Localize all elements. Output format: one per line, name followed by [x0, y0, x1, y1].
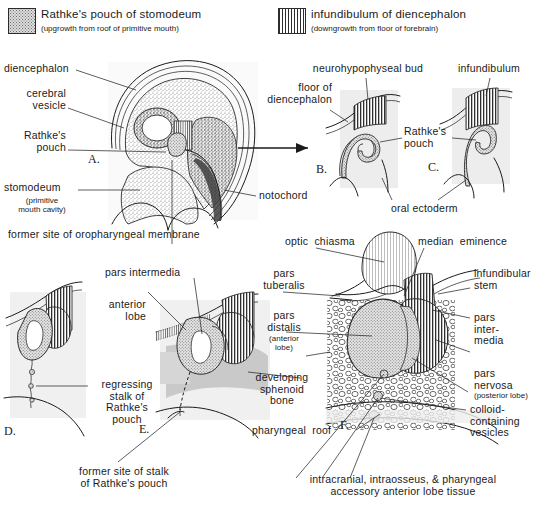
label-pars-intermedia-f: pars inter- media [474, 312, 504, 347]
label-notochord: notochord [259, 190, 308, 202]
label-regressing-stalk: regressing stalk of Rathke's pouch [90, 379, 164, 425]
label-floor-of-diencephalon: floor of diencephalon [258, 82, 332, 105]
panel-c-artwork [440, 88, 512, 198]
panel-a-artwork [108, 61, 258, 232]
label-diencephalon: diencephalon [4, 63, 69, 75]
figure-development-of-pituitary: Rathke's pouch of stomodeum (upgrowth fr… [0, 0, 549, 511]
label-pharyngeal-roof: pharyngeal roof [252, 425, 331, 437]
label-oral-ectoderm: oral ectoderm [391, 203, 458, 215]
label-former-site-of-stalk: former site of stalk of Rathke's pouch [56, 466, 192, 489]
panel-letter-f: F. [340, 418, 349, 433]
label-stomodeum: stomodeum [4, 182, 61, 194]
label-pars-distalis: pars distalis [246, 310, 322, 333]
label-pars-tuberalis: pars tuberalis [246, 268, 322, 291]
label-infundibulum-c: infundibulum [458, 63, 520, 75]
panel-letter-d: D. [4, 424, 16, 439]
label-rathkes-pouch-bc: Rathke's pouch [404, 126, 446, 149]
label-anterior-lobe-e: anterior lobe [66, 299, 146, 322]
label-pars-nervosa-sub: (posterior lobe) [474, 391, 528, 400]
label-pars-intermedia-e: pars intermedia [105, 267, 180, 279]
label-median-eminence: median eminence [418, 236, 507, 248]
label-rathkes-pouch-a: Rathke's pouch [0, 130, 66, 153]
label-accessory-anterior-lobe-tissue: intracranial, intraosseus, & pharyngeal … [258, 474, 548, 497]
panel-letter-a: A. [88, 152, 100, 167]
panel-letter-c: C. [428, 160, 439, 175]
panel-letter-b: B. [316, 162, 327, 177]
label-cerebral-vesicle: cerebral vesicle [0, 88, 66, 111]
panel-b-artwork [326, 90, 400, 196]
label-stomodeum-sub: (primitive mouth cavity) [0, 196, 84, 214]
label-neurohypophyseal-bud: neurohypophyseal bud [294, 63, 442, 75]
label-former-site-oropharyngeal-membrane: former site of oropharyngeal membrane [8, 229, 200, 241]
label-infundibular-stem: infundibular stem [474, 268, 531, 291]
label-pars-distalis-sub: (anterior lobe) [246, 334, 322, 352]
label-optic-chiasma: optic chiasma [285, 236, 355, 248]
label-colloid-containing-vesicles: colloid- containing vesicles [470, 404, 520, 439]
label-developing-sphenoid-bone: developing sphenoid bone [240, 372, 324, 407]
label-pars-nervosa: pars nervosa [474, 368, 513, 391]
